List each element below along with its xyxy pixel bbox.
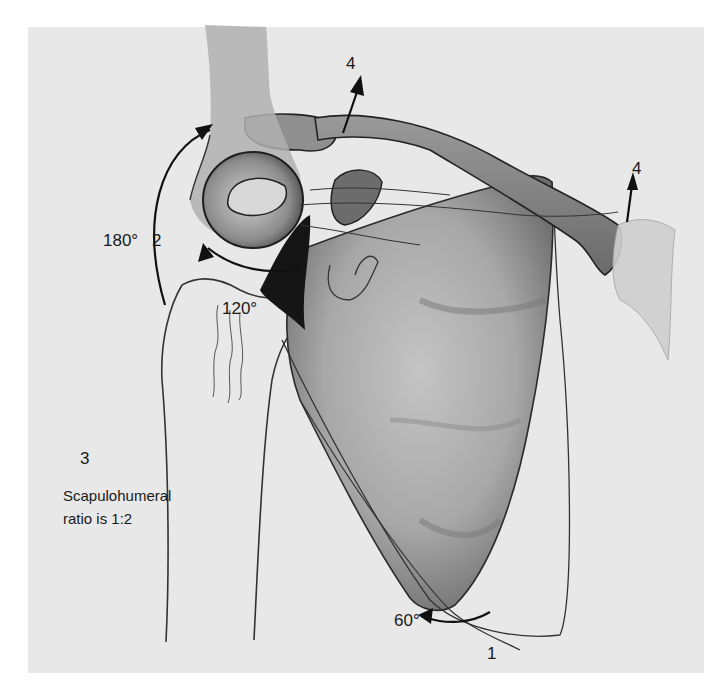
- label-step-4-right: 4: [632, 160, 641, 177]
- caption-ratio-line2: ratio is 1:2: [63, 508, 132, 530]
- arrow-120-head: [198, 243, 214, 262]
- label-step-2: 2: [152, 232, 161, 249]
- scapula: [287, 176, 553, 611]
- coracoid: [331, 170, 382, 225]
- label-180-degrees: 180°: [103, 232, 138, 249]
- shoulder-illustration: [0, 0, 727, 694]
- sternum-edge: [613, 220, 675, 360]
- arrow-4-left-head: [350, 75, 364, 96]
- label-120-degrees: 120°: [222, 300, 257, 317]
- arrow-60-head: [418, 608, 433, 624]
- label-60-degrees: 60°: [394, 612, 420, 629]
- caption-ratio-line1: Scapulohumeral: [63, 485, 171, 507]
- label-step-3: 3: [80, 450, 89, 467]
- label-step-1: 1: [487, 645, 496, 662]
- label-step-4-left: 4: [346, 55, 355, 72]
- humerus-fracture-lines: [213, 305, 243, 403]
